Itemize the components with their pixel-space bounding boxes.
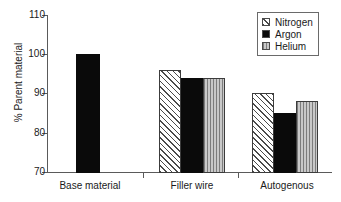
x-tick-label-autogenous: Autogenous [243, 180, 331, 192]
x-tick-sep-2 [238, 173, 239, 178]
legend-item-nitrogen: Nitrogen [262, 16, 313, 28]
legend-item-helium: Helium [262, 40, 313, 52]
x-tick-label-filler-wire: Filler wire [148, 180, 236, 192]
bar-autogenous-nitrogen [252, 93, 274, 173]
legend-label-argon: Argon [275, 29, 302, 40]
bar-autogenous-argon [274, 113, 296, 173]
legend-label-helium: Helium [275, 41, 306, 52]
legend-swatch-helium-icon [262, 42, 270, 50]
legend-swatch-argon-icon [262, 30, 270, 38]
x-tick-label-base-material: Base material [45, 180, 135, 192]
legend-swatch-nitrogen-icon [262, 18, 270, 26]
bar-filler-wire-nitrogen [159, 70, 181, 173]
x-tick-sep-1 [143, 173, 144, 178]
bar-filler-wire-argon [181, 78, 203, 173]
y-axis-title: % Parent material [13, 23, 24, 143]
bar-autogenous-helium [296, 101, 318, 173]
y-tick-label-110: 110 [19, 10, 45, 20]
y-tick-label-70: 70 [19, 167, 45, 177]
legend-label-nitrogen: Nitrogen [275, 17, 313, 28]
bar-chart: 110 100 90 80 70 % Parent material Base … [0, 0, 341, 202]
bar-base-material-argon [76, 54, 100, 173]
y-axis-line [47, 15, 48, 173]
legend: Nitrogen Argon Helium [257, 12, 319, 56]
legend-item-argon: Argon [262, 28, 313, 40]
bar-filler-wire-helium [203, 78, 225, 173]
